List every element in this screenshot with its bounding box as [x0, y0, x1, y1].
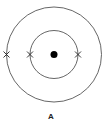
- diagram-label: A: [0, 112, 106, 122]
- atom-diagram: [0, 0, 106, 126]
- nucleus: [51, 51, 58, 58]
